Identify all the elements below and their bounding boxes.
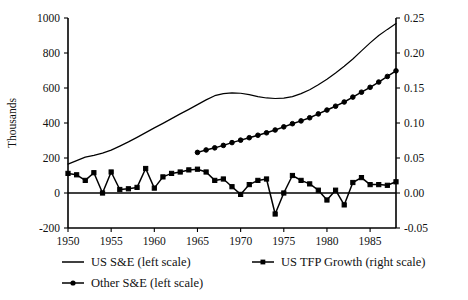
data-point-marker [299, 178, 303, 182]
right-axis-tick-label: 0.20 [404, 47, 424, 59]
data-point-marker [359, 90, 364, 95]
data-point-marker [161, 175, 165, 179]
data-point-marker [75, 173, 79, 177]
right-axis-tick-label: 0.25 [404, 12, 424, 24]
data-point-marker [376, 80, 381, 85]
y-axis-title-label: Thousands [6, 98, 18, 148]
data-point-marker [290, 173, 294, 177]
data-point-marker [342, 203, 346, 207]
data-point-marker [213, 178, 217, 182]
data-point-marker [195, 167, 199, 171]
x-axis-tick-label: 1975 [272, 235, 295, 247]
data-point-marker [195, 150, 200, 155]
x-axis-tick-label: 1965 [186, 235, 209, 247]
x-axis-tick-label: 1955 [100, 235, 123, 247]
data-point-marker [247, 183, 251, 187]
data-point-marker [109, 170, 113, 174]
data-point-marker [238, 138, 243, 143]
data-point-marker [316, 188, 320, 192]
data-point-marker [385, 74, 390, 79]
legend-label: US S&E (left scale) [91, 255, 191, 269]
data-point-marker [351, 95, 356, 100]
data-point-marker [178, 170, 182, 174]
right-axis-tick-label: 0.00 [404, 187, 424, 199]
chart-container: Thousands -20002004006008001000 -0.050.0… [0, 0, 468, 300]
data-point-marker [273, 212, 277, 216]
x-axis-tick-label: 1950 [57, 235, 80, 247]
x-axis-tick-label: 1985 [359, 235, 382, 247]
left-axis-tick-label: 0 [54, 187, 60, 199]
data-point-marker [368, 183, 372, 187]
data-point-marker [239, 192, 243, 196]
data-point-marker [66, 171, 70, 175]
data-point-marker [316, 112, 321, 117]
data-point-marker [212, 146, 217, 151]
data-point-marker [342, 100, 347, 105]
data-point-marker [187, 168, 191, 172]
data-point-marker [247, 135, 252, 140]
line-chart: Thousands -20002004006008001000 -0.050.0… [0, 0, 468, 300]
left-axis-tick-label: 600 [43, 82, 61, 94]
data-point-marker [256, 178, 260, 182]
data-point-marker [100, 191, 104, 195]
y-axis-title: Thousands [6, 98, 18, 148]
legend-swatch-square-marker [261, 260, 266, 265]
data-point-marker [204, 170, 208, 174]
data-point-marker [221, 143, 226, 148]
data-point-marker [204, 148, 209, 153]
data-point-marker [299, 119, 304, 124]
data-point-marker [333, 188, 337, 192]
data-point-marker [394, 180, 398, 184]
data-point-marker [359, 176, 363, 180]
data-point-marker [83, 178, 87, 182]
data-point-marker [152, 186, 156, 190]
data-point-marker [307, 115, 312, 120]
data-point-marker [351, 180, 355, 184]
left-axis-tick-label: 800 [43, 47, 61, 59]
right-axis-tick-label: 0.15 [404, 82, 424, 94]
legend-label: US TFP Growth (right scale) [281, 255, 425, 269]
data-point-marker [385, 183, 389, 187]
left-axis-tick-label: -200 [39, 222, 60, 234]
data-point-marker [264, 131, 269, 136]
legend-swatch-circle-marker [70, 280, 75, 285]
left-axis-tick-label: 200 [43, 152, 61, 164]
data-point-marker [394, 69, 399, 74]
data-point-marker [256, 133, 261, 138]
right-axis-tick-label: 0.05 [404, 152, 424, 164]
data-point-marker [333, 104, 338, 109]
data-point-marker [368, 85, 373, 90]
x-axis-tick-label: 1970 [229, 235, 252, 247]
right-axis-tick-label: 0.10 [404, 117, 424, 129]
data-point-marker [230, 185, 234, 189]
data-point-marker [325, 108, 330, 113]
left-axis-tick-label: 400 [43, 117, 61, 129]
data-point-marker [221, 177, 225, 181]
x-axis-tick-label: 1960 [143, 235, 166, 247]
data-point-marker [290, 121, 295, 126]
data-point-marker [118, 187, 122, 191]
data-point-marker [135, 185, 139, 189]
data-point-marker [126, 187, 130, 191]
data-point-marker [273, 128, 278, 133]
data-point-marker [281, 125, 286, 130]
data-point-marker [230, 140, 235, 145]
data-point-marker [92, 171, 96, 175]
data-point-marker [325, 198, 329, 202]
right-axis-tick-label: -0.05 [404, 222, 428, 234]
data-point-marker [169, 171, 173, 175]
data-point-marker [264, 177, 268, 181]
data-point-marker [144, 166, 148, 170]
left-axis-tick-label: 1000 [37, 12, 60, 24]
data-point-marker [377, 183, 381, 187]
legend-label: Other S&E (left scale) [91, 276, 203, 290]
x-axis-tick-label: 1980 [315, 235, 338, 247]
data-point-marker [308, 182, 312, 186]
data-point-marker [282, 191, 286, 195]
